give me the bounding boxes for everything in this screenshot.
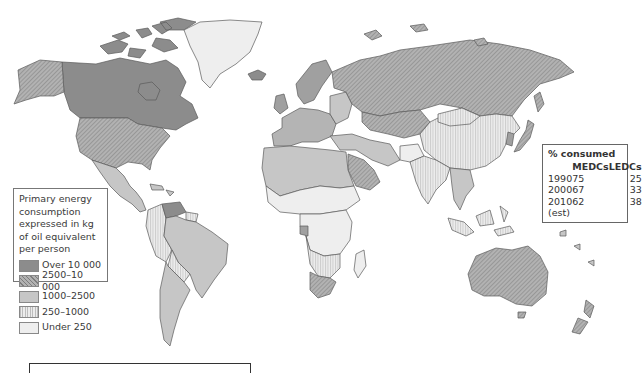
legend-title-line: consumption [19, 206, 102, 219]
legend-title-line: per person [19, 243, 102, 256]
consumption-table-box: % consumed MEDCs LEDCs 1990 75 25 2000 6… [542, 144, 628, 223]
legend-item-under-250: Under 250 [19, 321, 102, 335]
region-west-europe [272, 108, 336, 146]
table-note-row: (est) [548, 207, 642, 219]
table-cell-year: 1990 [548, 173, 572, 185]
map-legend: Primary energy consumption expressed in … [13, 188, 108, 282]
legend-swatch-1000-2500 [19, 291, 39, 303]
legend-label: Under 250 [42, 321, 92, 334]
table-header [548, 161, 572, 173]
table-cell-medcs: 62 [572, 196, 608, 208]
table-cell-medcs: 75 [572, 173, 608, 185]
region-uk [274, 94, 288, 114]
legend-swatch-2500-10000 [19, 275, 39, 287]
region-indonesia [448, 206, 514, 236]
table-cell-year: 2000 [548, 184, 572, 196]
empty-cell [609, 207, 642, 219]
region-alaska [14, 60, 64, 104]
table-header-ledcs: LEDCs [609, 161, 642, 173]
legend-item-250-1000: 250–1000 [19, 305, 102, 319]
region-scandinavia [296, 60, 332, 104]
region-iceland [248, 70, 266, 80]
region-pacific-islands [560, 230, 594, 266]
table-cell-ledcs: 33 [609, 184, 642, 196]
region-madagascar [354, 250, 366, 278]
region-australia [468, 246, 548, 306]
legend-title: Primary energy consumption expressed in … [19, 193, 102, 256]
legend-title-line: Primary energy [19, 193, 102, 206]
region-gabon [300, 226, 308, 236]
table-header-medcs: MEDCs [572, 161, 608, 173]
table-cell-ledcs: 38 [609, 196, 642, 208]
empty-cell [572, 207, 608, 219]
caption-box [29, 363, 251, 373]
table-row: 2000 67 33 [548, 184, 642, 196]
legend-label: 250–1000 [42, 306, 89, 319]
legend-label: 1000–2500 [42, 290, 95, 303]
region-canada-arctic [100, 18, 196, 58]
legend-title-line: of oil equivalent [19, 231, 102, 244]
legend-swatch-over-10000 [19, 260, 39, 272]
table-title: % consumed [548, 148, 622, 160]
region-tasmania [518, 312, 526, 318]
table-row: 1990 75 25 [548, 173, 642, 185]
table-header-row: MEDCs LEDCs [548, 161, 642, 173]
table-cell-year: 2010 [548, 196, 572, 208]
table-cell-medcs: 67 [572, 184, 608, 196]
legend-item-2500-10000: 2500–10 000 [19, 274, 102, 288]
legend-swatch-250-1000 [19, 306, 39, 318]
table-row: 2010 62 38 [548, 196, 642, 208]
consumption-table: MEDCs LEDCs 1990 75 25 2000 67 33 2010 6… [548, 161, 642, 219]
region-se-asia [450, 168, 474, 210]
legend-swatch-under-250 [19, 322, 39, 334]
legend-title-line: expressed in kg [19, 218, 102, 231]
legend-item-1000-2500: 1000–2500 [19, 290, 102, 304]
region-venezuela [162, 202, 186, 218]
region-caribbean [150, 184, 174, 196]
table-note: (est) [548, 207, 572, 219]
table-cell-ledcs: 25 [609, 173, 642, 185]
region-new-zealand [572, 300, 594, 334]
